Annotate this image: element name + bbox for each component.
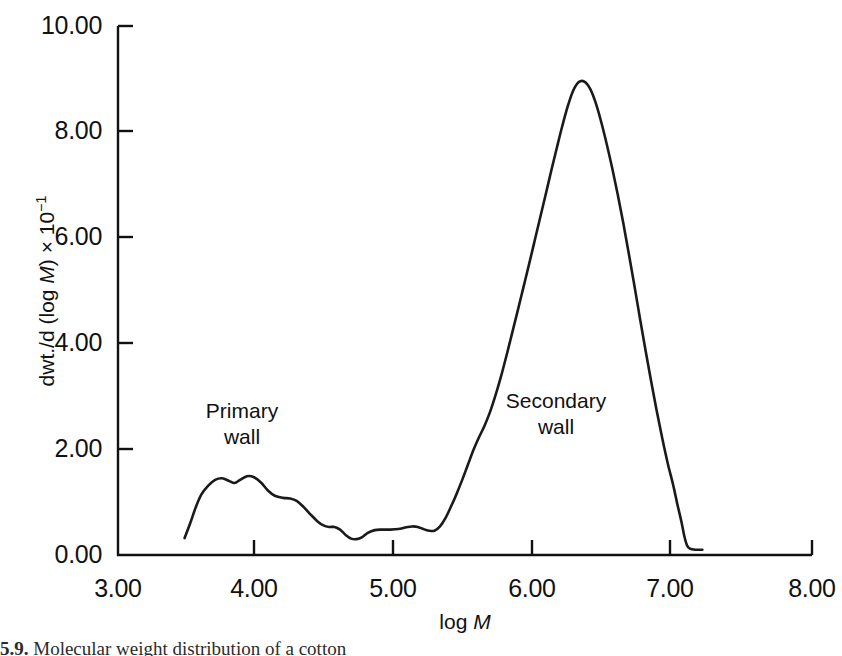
x-axis-title: log M bbox=[365, 610, 565, 634]
xtick-label-4: 4.00 bbox=[199, 576, 309, 601]
annotation-secondary-wall: Secondary wall bbox=[472, 388, 640, 440]
data-curve bbox=[185, 81, 703, 550]
y-axis-ticks bbox=[118, 26, 133, 449]
xtick-label-3: 3.00 bbox=[63, 576, 173, 601]
annotation-primary-wall: Primary wall bbox=[180, 398, 304, 450]
figure-caption-number: 5.9. bbox=[0, 638, 29, 656]
y-axis-title-variable: M bbox=[35, 266, 58, 284]
figure-caption-text: Molecular weight distribution of a cotto… bbox=[33, 638, 346, 656]
xtick-label-8: 8.00 bbox=[757, 576, 842, 601]
ytick-label-10: 10.00 bbox=[16, 13, 102, 38]
y-axis-title-exponent: −1 bbox=[33, 196, 49, 212]
xtick-label-7: 7.00 bbox=[615, 576, 725, 601]
chart-plot bbox=[0, 0, 842, 656]
y-axis-title-prefix: dwt./d (log bbox=[35, 284, 58, 387]
x-axis-title-variable: M bbox=[473, 610, 491, 633]
figure-container: 10.00 8.00 6.00 4.00 2.00 0.00 3.00 4.00… bbox=[0, 0, 842, 656]
x-axis-title-prefix: log bbox=[439, 610, 473, 633]
xtick-label-6: 6.00 bbox=[477, 576, 587, 601]
x-axis-ticks bbox=[254, 540, 812, 555]
y-axis-title-suffix: ) × 10 bbox=[35, 212, 58, 266]
figure-caption: 5.9. Molecular weight distribution of a … bbox=[0, 638, 842, 656]
ytick-label-0: 0.00 bbox=[16, 542, 102, 567]
xtick-label-5: 5.00 bbox=[338, 576, 448, 601]
y-axis-title: dwt./d (log M) × 10−1 bbox=[29, 81, 59, 501]
